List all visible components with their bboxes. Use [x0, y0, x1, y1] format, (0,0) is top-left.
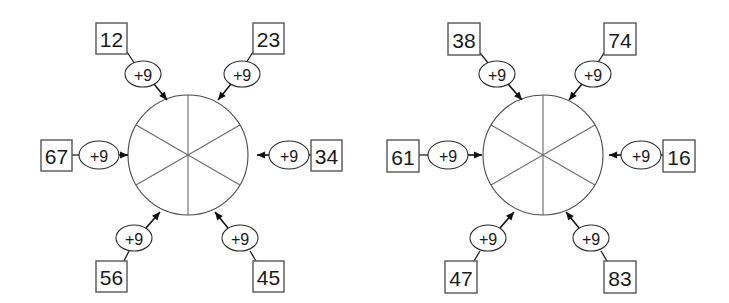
operation-label-right: +9: [280, 148, 298, 165]
number-value-bottom-left: 47: [449, 267, 472, 290]
wheel-spoke-group-bottom-left: +947: [445, 212, 514, 293]
wheel-spoke-group-right: +934: [257, 140, 342, 171]
number-value-right: 16: [667, 146, 690, 169]
operation-label-bottom-right: +9: [231, 231, 249, 248]
arrow-head-right: [257, 151, 265, 158]
operation-label-bottom-left: +9: [125, 231, 143, 248]
wheel-spoke-group-bottom-right: +945: [215, 212, 284, 292]
number-value-left: 67: [45, 145, 68, 168]
wheel-spoke-group-right: +916: [609, 140, 695, 172]
addition-wheel-left-svg: +912+923+967+934+956+945: [0, 0, 365, 303]
number-value-bottom-right: 45: [257, 266, 280, 289]
wheel-spoke-group-left: +967: [41, 140, 128, 171]
addition-wheel-right-svg: +938+974+961+916+947+983: [364, 0, 729, 303]
wheel-spoke-group-bottom-right: +983: [566, 212, 636, 293]
wheel-spoke-group-top-right: +923: [218, 23, 284, 100]
addition-wheel-diagram-right: +938+974+961+916+947+983: [364, 0, 729, 303]
number-value-top-right: 74: [608, 29, 632, 52]
number-value-bottom-right: 83: [608, 267, 631, 290]
operation-label-top-left: +9: [488, 67, 506, 84]
arrow-head-left: [474, 151, 482, 158]
addition-wheel-diagram-left: +912+923+967+934+956+945: [0, 0, 365, 303]
operation-label-top-right: +9: [233, 67, 251, 84]
number-value-top-right: 23: [257, 28, 280, 51]
wheel-spoke-group-bottom-left: +956: [96, 212, 160, 292]
arrow-head-right: [609, 151, 617, 158]
number-value-left: 61: [391, 146, 414, 169]
number-value-top-left: 12: [100, 28, 123, 51]
wheel-spoke-group-top-left: +938: [448, 23, 522, 100]
operation-label-bottom-left: +9: [479, 231, 497, 248]
connector-line-bottom-right: [601, 251, 607, 261]
operation-label-left: +9: [90, 148, 108, 165]
number-value-right: 34: [315, 145, 339, 168]
worksheet-canvas: +912+923+967+934+956+945 +938+974+961+91…: [0, 0, 729, 303]
wheel-spoke-group-top-right: +974: [569, 23, 636, 100]
number-value-top-left: 38: [452, 29, 475, 52]
connector-line-bottom-left: [474, 251, 480, 261]
wheel-spoke-group-top-left: +912: [96, 23, 167, 100]
operation-label-top-right: +9: [584, 67, 602, 84]
operation-label-left: +9: [439, 148, 457, 165]
wheel-spoke-group-left: +961: [387, 140, 482, 172]
operation-label-right: +9: [632, 148, 650, 165]
connector-line-bottom-left: [124, 251, 129, 261]
connector-line-bottom-right: [250, 251, 256, 261]
operation-label-bottom-right: +9: [582, 231, 600, 248]
arrow-head-left: [120, 151, 128, 158]
number-value-bottom-left: 56: [100, 266, 123, 289]
operation-label-top-left: +9: [134, 67, 152, 84]
